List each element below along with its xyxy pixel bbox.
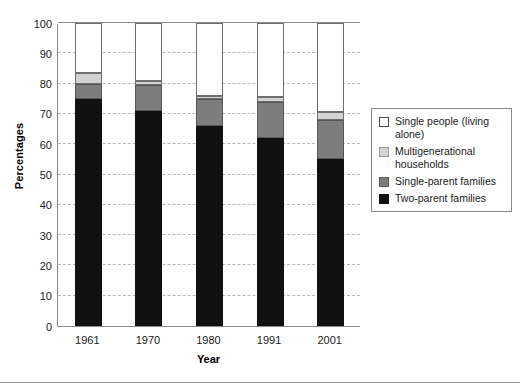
bar-segment bbox=[196, 96, 223, 99]
bar-segment bbox=[257, 138, 284, 326]
y-tick-label: 90 bbox=[18, 49, 52, 60]
bar-stack bbox=[317, 23, 344, 326]
bar-segment bbox=[75, 73, 102, 84]
bar-stack bbox=[75, 23, 102, 326]
medium-gray-swatch-icon bbox=[379, 177, 389, 187]
y-tick-label: 70 bbox=[18, 109, 52, 120]
bar-segment bbox=[257, 102, 284, 138]
x-tick-label: 1970 bbox=[118, 335, 178, 346]
bar-segment bbox=[196, 99, 223, 126]
bar-segment bbox=[135, 81, 162, 86]
bar-stack bbox=[196, 23, 223, 326]
bar-segment bbox=[196, 126, 223, 326]
y-tick-label: 20 bbox=[18, 261, 52, 272]
bar-stack bbox=[257, 23, 284, 326]
bar-segment bbox=[257, 23, 284, 97]
legend-item: Two-parent families bbox=[379, 192, 505, 205]
x-tick-label: 1991 bbox=[239, 335, 299, 346]
legend-item-label: Single people (living alone) bbox=[395, 115, 505, 141]
chart-figure: Percentages 0102030405060708090100 19611… bbox=[0, 0, 520, 389]
y-tick-label: 30 bbox=[18, 231, 52, 242]
y-tick-label: 100 bbox=[18, 19, 52, 30]
plot-area bbox=[57, 24, 360, 327]
bar-segment bbox=[257, 97, 284, 102]
bar-segment bbox=[75, 23, 102, 73]
bar-segment bbox=[317, 112, 344, 120]
white-swatch-icon bbox=[379, 117, 389, 127]
bar-segment bbox=[196, 23, 223, 96]
bar-segment bbox=[135, 23, 162, 81]
y-tick-label: 50 bbox=[18, 170, 52, 181]
x-axis-title: Year bbox=[57, 353, 360, 365]
legend-item: Multigenerational households bbox=[379, 145, 505, 171]
bar-segment bbox=[317, 23, 344, 112]
legend-item: Single people (living alone) bbox=[379, 115, 505, 141]
light-gray-swatch-icon bbox=[379, 147, 389, 157]
legend-item-label: Single-parent families bbox=[395, 175, 496, 188]
bar-segment bbox=[135, 85, 162, 111]
black-swatch-icon bbox=[379, 194, 389, 204]
legend-item-label: Multigenerational households bbox=[395, 145, 505, 171]
y-tick-label: 10 bbox=[18, 291, 52, 302]
footer-divider bbox=[0, 382, 520, 383]
x-tick-label: 2001 bbox=[300, 335, 360, 346]
bar-segment bbox=[317, 120, 344, 159]
y-tick-label: 0 bbox=[18, 322, 52, 333]
bar-segment bbox=[135, 111, 162, 326]
y-tick-label: 40 bbox=[18, 200, 52, 211]
chart-legend: Single people (living alone)Multigenerat… bbox=[371, 108, 512, 212]
bar-stack bbox=[135, 23, 162, 326]
bar-segment bbox=[75, 84, 102, 99]
x-tick-label: 1980 bbox=[179, 335, 239, 346]
y-tick-label: 80 bbox=[18, 79, 52, 90]
y-axis-tick-labels: 0102030405060708090100 bbox=[14, 24, 52, 327]
x-tick-label: 1961 bbox=[57, 335, 117, 346]
legend-item: Single-parent families bbox=[379, 175, 505, 188]
legend-item-label: Two-parent families bbox=[395, 192, 486, 205]
y-tick-label: 60 bbox=[18, 140, 52, 151]
bar-segment bbox=[317, 159, 344, 326]
bar-segment bbox=[75, 99, 102, 326]
